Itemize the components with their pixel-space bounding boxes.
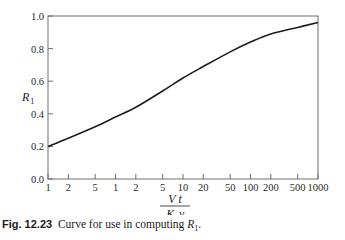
y-tick-label: 0.6: [31, 76, 44, 87]
x-tick-label: 2: [66, 182, 71, 193]
plot-frame: [48, 16, 318, 179]
y-tick-label: 0.0: [31, 174, 44, 185]
y-axis-label: R1: [21, 90, 34, 106]
x-tick-label: 5: [93, 182, 98, 193]
x-tick-label: 200: [263, 182, 279, 193]
chart: 0.00.20.40.60.81.0 125125102050100200500…: [0, 0, 345, 215]
figure-caption: Fig. 12.23 Curve for use in computing R1…: [2, 218, 201, 233]
x-tick-label: 20: [198, 182, 209, 193]
y-tick-label: 1.0: [31, 11, 44, 22]
caption-text: Curve for use in computing: [58, 218, 184, 230]
x-tick-label: 2: [133, 182, 138, 193]
x-tick-label: 1: [45, 182, 50, 193]
svg-text:V t: V t: [168, 192, 182, 206]
x-axis-label: V t K1γ: [160, 192, 190, 215]
x-tick-label: 1: [113, 182, 118, 193]
x-tick-label: 500: [290, 182, 306, 193]
x-tick-label: 50: [225, 182, 236, 193]
x-tick-label: 5: [160, 182, 165, 193]
figure-number: Fig. 12.23: [2, 218, 52, 230]
data-curve: [48, 23, 318, 147]
y-tick-label: 0.4: [31, 109, 45, 120]
y-tick-label: 0.2: [31, 141, 44, 152]
x-tick-label: 100: [243, 182, 259, 193]
svg-text:K1γ: K1γ: [165, 207, 184, 215]
y-tick-label: 0.8: [31, 44, 44, 55]
x-axis: 1251251020501002005001000: [45, 174, 328, 193]
x-tick-label: 1000: [308, 182, 329, 193]
